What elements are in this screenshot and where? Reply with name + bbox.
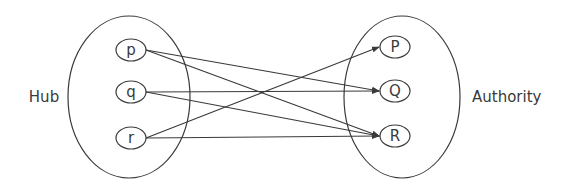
edge-p-to-Q [146,50,379,91]
groups-layer: HubAuthority [29,16,542,178]
authority-label: Authority [472,88,542,106]
node-p: p [116,39,146,61]
diagram-canvas: HubAuthority pqrPQR [0,0,581,195]
node-P-label: P [390,38,399,56]
node-q: q [116,81,146,103]
group-authority: Authority [344,16,542,178]
node-Q-label: Q [389,82,401,100]
hub-authority-diagram: HubAuthority pqrPQR [0,0,581,195]
node-r: r [116,127,146,149]
node-R: R [380,125,410,147]
node-Q: Q [380,80,410,102]
node-r-label: r [128,129,135,147]
hub-label: Hub [29,88,59,106]
node-q-label: q [126,83,136,101]
node-P: P [380,36,410,58]
node-R-label: R [390,127,400,145]
group-hub: Hub [29,16,190,178]
node-p-label: p [126,41,136,59]
edge-r-to-R [146,136,379,138]
